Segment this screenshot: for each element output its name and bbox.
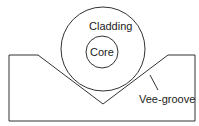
vee-groove-label: Vee-groove	[139, 93, 195, 105]
core-label: Core	[90, 46, 114, 58]
fiber-vee-groove-diagram: Cladding Core Vee-groove	[0, 0, 199, 126]
cladding-label: Cladding	[89, 20, 132, 32]
vee-groove-block	[9, 55, 195, 121]
groove-leader-line	[150, 75, 158, 90]
